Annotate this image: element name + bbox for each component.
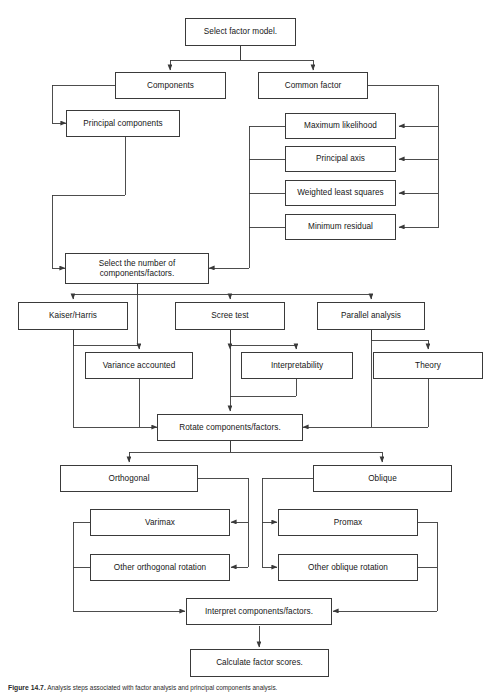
node-rotate-components-factors[interactable]: Rotate components/factors. [157, 414, 303, 441]
node-label: Oblique [368, 474, 397, 484]
node-label: Maximum likelihood [304, 121, 377, 131]
node-label: Theory [415, 361, 441, 371]
node-other-orthogonal-rotation[interactable]: Other orthogonal rotation [90, 554, 230, 581]
node-label: Scree test [211, 311, 248, 321]
node-components[interactable]: Components [115, 72, 226, 99]
connector-layer [0, 0, 499, 695]
node-parallel-analysis[interactable]: Parallel analysis [317, 302, 425, 330]
node-label: Rotate components/factors. [179, 423, 280, 433]
node-select-factor-model[interactable]: Select factor model. [185, 18, 296, 46]
node-oblique[interactable]: Oblique [313, 465, 452, 492]
node-minimum-residual[interactable]: Minimum residual [285, 214, 396, 240]
node-scree-test[interactable]: Scree test [175, 302, 285, 330]
node-interpretability[interactable]: Interpretability [241, 352, 353, 379]
node-label: Orthogonal [108, 474, 149, 484]
node-maximum-likelihood[interactable]: Maximum likelihood [285, 113, 396, 139]
figure-caption: Figure 14.7. Analysis steps associated w… [8, 684, 494, 695]
node-principal-components[interactable]: Principal components [66, 110, 180, 137]
node-label: Principal components [83, 119, 162, 129]
node-label: Calculate factor scores. [216, 658, 303, 668]
node-label: Promax [334, 518, 363, 528]
node-select-number-of-components[interactable]: Select the number of components/factors. [65, 253, 209, 284]
node-label: Components [147, 81, 194, 91]
node-interpret-components-factors[interactable]: Interpret components/factors. [186, 598, 332, 625]
node-label: Other orthogonal rotation [114, 563, 206, 573]
node-label: Variance accounted [103, 361, 176, 371]
node-label: Other oblique rotation [308, 563, 388, 573]
node-label: Weighted least squares [297, 188, 384, 198]
figure-caption-label: Figure 14.7. [8, 684, 46, 691]
node-label: Kaiser/Harris [49, 311, 97, 321]
node-weighted-least-squares[interactable]: Weighted least squares [285, 180, 396, 206]
flowchart-canvas: Select factor model. Components Common f… [0, 0, 499, 695]
node-label: Select factor model. [204, 27, 277, 37]
node-calculate-factor-scores[interactable]: Calculate factor scores. [190, 649, 329, 677]
node-kaiser-harris[interactable]: Kaiser/Harris [18, 302, 128, 330]
node-label: Varimax [145, 518, 175, 528]
node-principal-axis[interactable]: Principal axis [285, 146, 396, 172]
node-theory[interactable]: Theory [373, 352, 483, 379]
node-common-factor[interactable]: Common factor [258, 72, 368, 99]
node-label: Common factor [285, 81, 342, 91]
node-orthogonal[interactable]: Orthogonal [60, 465, 198, 492]
node-varimax[interactable]: Varimax [90, 509, 230, 536]
figure-caption-text: Analysis steps associated with factor an… [47, 684, 277, 691]
node-label: Interpretability [271, 361, 323, 371]
node-label: Select the number of components/factors. [99, 259, 176, 279]
node-label: Minimum residual [308, 222, 373, 232]
node-label: Parallel analysis [341, 311, 401, 321]
node-label: Principal axis [316, 154, 365, 164]
node-label: Interpret components/factors. [205, 607, 313, 617]
node-variance-accounted[interactable]: Variance accounted [85, 352, 193, 379]
node-other-oblique-rotation[interactable]: Other oblique rotation [278, 554, 418, 581]
node-promax[interactable]: Promax [278, 509, 418, 536]
